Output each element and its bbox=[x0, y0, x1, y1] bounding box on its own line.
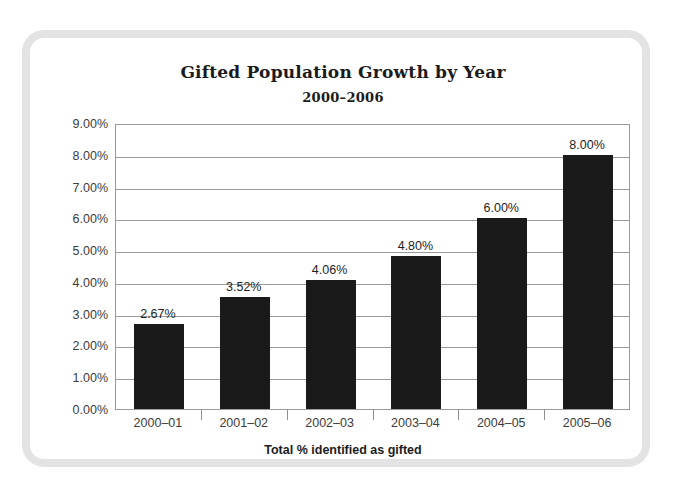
x-axis-title: Total % identified as gifted bbox=[0, 443, 686, 457]
chart-figure: Gifted Population Growth by Year 2000–20… bbox=[0, 0, 686, 497]
gridline bbox=[116, 379, 629, 380]
x-axis-tick-label: 2004–05 bbox=[458, 417, 544, 430]
bar-value-label: 4.80% bbox=[373, 240, 459, 253]
plot-area bbox=[115, 124, 630, 410]
x-axis-tick-label: 2005–06 bbox=[544, 417, 630, 430]
bar bbox=[306, 280, 356, 409]
bar-value-label: 3.52% bbox=[201, 281, 287, 294]
y-axis-tick-label: 7.00% bbox=[42, 181, 108, 194]
y-axis-tick-label: 8.00% bbox=[42, 150, 108, 163]
bar-value-label: 4.06% bbox=[287, 264, 373, 277]
gridline bbox=[116, 347, 629, 348]
chart-title: Gifted Population Growth by Year bbox=[0, 62, 686, 82]
y-axis-tick-label: 3.00% bbox=[42, 308, 108, 321]
x-axis-tick-mark bbox=[544, 410, 545, 420]
bar bbox=[477, 218, 527, 409]
x-axis-tick-label: 2003–04 bbox=[373, 417, 459, 430]
y-axis-tick-label: 4.00% bbox=[42, 277, 108, 290]
y-axis-tick-label: 6.00% bbox=[42, 213, 108, 226]
y-axis-tick-label: 0.00% bbox=[42, 404, 108, 417]
y-axis-tick-label: 1.00% bbox=[42, 372, 108, 385]
x-axis-tick-mark bbox=[373, 410, 374, 420]
y-axis-tick-labels: 0.00%1.00%2.00%3.00%4.00%5.00%6.00%7.00%… bbox=[40, 124, 108, 410]
y-axis-tick-label: 2.00% bbox=[42, 340, 108, 353]
gridline bbox=[116, 220, 629, 221]
gridline bbox=[116, 189, 629, 190]
bar bbox=[391, 256, 441, 409]
bar bbox=[220, 297, 270, 409]
gridline bbox=[116, 157, 629, 158]
y-axis-tick-label: 9.00% bbox=[42, 118, 108, 131]
x-axis-tick-mark bbox=[287, 410, 288, 420]
bar-value-label: 8.00% bbox=[544, 139, 630, 152]
x-axis-tick-mark bbox=[201, 410, 202, 420]
bar-value-label: 6.00% bbox=[458, 202, 544, 215]
x-axis-tick-mark bbox=[458, 410, 459, 420]
x-axis-tick-label: 2000–01 bbox=[115, 417, 201, 430]
chart-subtitle: 2000–2006 bbox=[0, 90, 686, 105]
x-axis-tick-label: 2002–03 bbox=[287, 417, 373, 430]
gridline bbox=[116, 284, 629, 285]
bar bbox=[134, 324, 184, 409]
y-axis-tick-label: 5.00% bbox=[42, 245, 108, 258]
bar bbox=[563, 155, 613, 409]
bar-value-label: 2.67% bbox=[115, 308, 201, 321]
x-axis-tick-label: 2001–02 bbox=[201, 417, 287, 430]
